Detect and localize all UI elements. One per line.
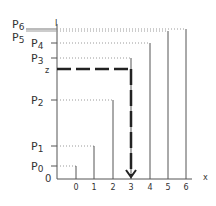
svg-text:6: 6 bbox=[183, 183, 188, 192]
svg-text:3: 3 bbox=[128, 183, 133, 192]
svg-text:2: 2 bbox=[110, 183, 115, 192]
label-p2: P2 bbox=[31, 94, 43, 108]
label-origin: 0 bbox=[45, 173, 51, 184]
label-p6: P6 bbox=[12, 18, 25, 32]
svg-text:0: 0 bbox=[73, 183, 78, 192]
label-p5: P5 bbox=[12, 31, 24, 45]
label-p0: P0 bbox=[31, 160, 44, 174]
label-p4: P4 bbox=[31, 37, 44, 51]
svg-text:4: 4 bbox=[147, 183, 152, 192]
x-tick-labels: 0 1 2 3 4 5 6 bbox=[73, 183, 188, 192]
highlight-dashed-arrow bbox=[57, 69, 136, 177]
svg-text:1: 1 bbox=[91, 183, 96, 192]
svg-text:5: 5 bbox=[165, 183, 170, 192]
x-axis-label: x bbox=[203, 173, 208, 182]
y-ticks bbox=[51, 43, 57, 166]
label-z: z bbox=[45, 66, 49, 75]
label-p3: P3 bbox=[31, 52, 43, 66]
label-p1: P1 bbox=[31, 140, 43, 154]
label-top-tick: I bbox=[55, 19, 57, 28]
dotted-level-lines bbox=[57, 29, 186, 166]
diagram-canvas: P6 P5 P4 P3 z I P2 P1 P0 0 0 1 2 3 4 5 6… bbox=[0, 0, 216, 206]
step-function-diagram: P6 P5 P4 P3 z I P2 P1 P0 0 0 1 2 3 4 5 6… bbox=[0, 0, 216, 206]
